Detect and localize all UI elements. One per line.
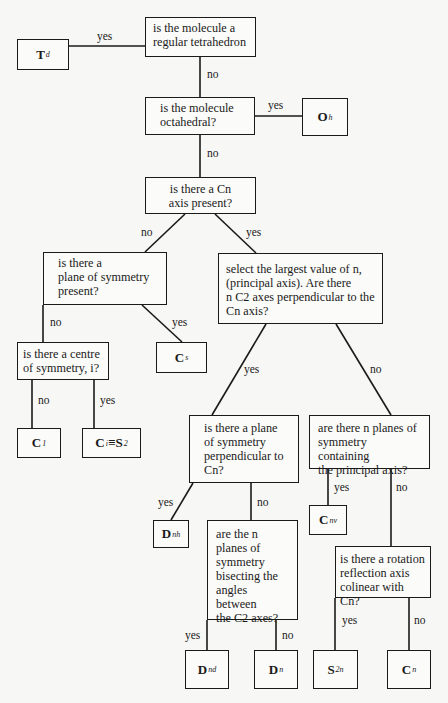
result-dnh-sub: nh	[172, 530, 180, 539]
result-cn-sub: n	[412, 665, 416, 674]
label-plane-no: no	[50, 316, 62, 328]
result-cnv: Cnv	[309, 505, 347, 535]
label-rotation-no: no	[414, 614, 426, 626]
result-oh: Oh	[302, 98, 348, 136]
result-oh-sub: h	[329, 113, 333, 122]
label-tetra-no: no	[207, 68, 219, 80]
label-perp-yes: yes	[158, 496, 173, 508]
question-perpendicular-plane: is there a plane of symmetry perpendicul…	[189, 415, 299, 483]
label-perp-no: no	[257, 496, 269, 508]
question-octahedral: is the molecule octahedral?	[145, 97, 255, 135]
label-centre-no: no	[38, 394, 50, 406]
result-dn: Dn	[254, 650, 298, 689]
label-select-no: no	[370, 363, 382, 375]
result-dn-main: D	[269, 662, 278, 678]
result-cnv-main: C	[319, 512, 328, 528]
label-nplanes-no: no	[396, 481, 408, 493]
result-td-sub: d	[46, 50, 50, 59]
result-cs-main: C	[175, 350, 184, 366]
edge-select-nplanes	[336, 324, 391, 415]
result-dnd-main: D	[198, 662, 207, 678]
result-oh-main: O	[317, 109, 327, 125]
label-octa-no: no	[207, 147, 219, 159]
result-cs: Cs	[156, 342, 207, 373]
label-bisect-no: no	[282, 629, 294, 641]
result-dnd: Dnd	[185, 650, 229, 689]
label-octa-yes: yes	[268, 99, 283, 111]
label-cn-yes: yes	[246, 226, 261, 238]
label-tetra-yes: yes	[97, 30, 112, 42]
result-c1-main: C	[32, 435, 41, 451]
edge-perp-dnh	[171, 483, 193, 520]
result-cn-main: C	[402, 662, 411, 678]
label-nplanes-yes: yes	[334, 481, 349, 493]
question-select-largest-n: select the largest value of n, (principa…	[218, 253, 383, 324]
label-rotation-yes: yes	[342, 614, 357, 626]
result-td-main: T	[36, 47, 45, 63]
label-cn-no: no	[141, 226, 153, 238]
result-dnh-main: D	[162, 526, 171, 542]
question-rotation-reflection: is there a rotation reflection axis coli…	[335, 546, 431, 598]
result-c1-sub: 1	[42, 439, 46, 448]
result-s2n-main: S	[327, 662, 334, 678]
result-s2n-sub: 2n	[336, 665, 344, 674]
question-cn-axis: is there a Cn axis present?	[145, 177, 256, 214]
question-plane-of-symmetry: is there a plane of symmetry present?	[43, 252, 167, 305]
result-ci-s2: Ci≡S2	[82, 428, 141, 458]
question-centre-of-symmetry: is there a centre of symmetry, i?	[17, 342, 109, 380]
result-ci-equiv-sub: 2	[124, 439, 128, 448]
result-s2n: S2n	[313, 650, 358, 689]
label-select-yes: yes	[244, 363, 259, 375]
result-dnd-sub: nd	[208, 665, 216, 674]
question-n-planes-principal: are there n planes of symmetry containin…	[309, 415, 430, 469]
label-plane-yes: yes	[172, 316, 187, 328]
result-cn: Cn	[387, 650, 431, 689]
result-cnv-sub: nv	[329, 516, 337, 525]
result-ci-main: C	[95, 435, 104, 451]
label-bisect-yes: yes	[185, 629, 200, 641]
label-centre-yes: yes	[100, 394, 115, 406]
result-dn-sub: n	[279, 665, 283, 674]
result-dnh: Dnh	[153, 520, 189, 548]
result-td: Td	[17, 39, 69, 70]
result-c1: C1	[17, 428, 61, 458]
result-ci-equiv: ≡S	[108, 435, 123, 451]
question-tetrahedron: is the molecule a regular tetrahedron	[145, 17, 256, 57]
question-bisecting-planes: are the n planes of symmetry bisecting t…	[207, 520, 298, 620]
result-cs-sub: s	[185, 353, 188, 362]
